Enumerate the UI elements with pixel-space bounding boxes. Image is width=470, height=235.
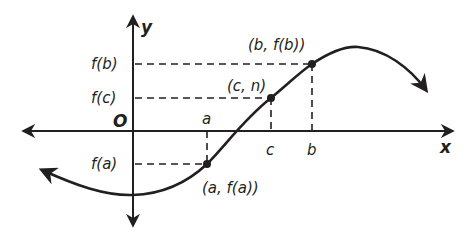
y-label-fb: f(b) xyxy=(91,55,118,73)
origin-label: O xyxy=(113,111,127,131)
dashed-guides xyxy=(135,64,312,164)
point-label-b: (b, f(b)) xyxy=(248,36,305,54)
y-axis-label: y xyxy=(141,17,153,37)
point-label-a: (a, f(a)) xyxy=(202,179,259,197)
y-label-fc: f(c) xyxy=(91,89,116,107)
ivt-diagram: y x O f(b) f(c) f(a) a c b (a, f(a)) (c,… xyxy=(0,0,470,235)
point-b xyxy=(308,60,316,68)
point-label-c: (c, n) xyxy=(227,77,266,95)
x-label-a: a xyxy=(202,110,211,128)
point-a xyxy=(203,160,211,168)
x-label-c: c xyxy=(266,141,275,159)
x-label-b: b xyxy=(307,141,317,159)
y-label-fa: f(a) xyxy=(91,155,117,173)
x-axis-label: x xyxy=(439,137,452,157)
point-c xyxy=(267,94,275,102)
